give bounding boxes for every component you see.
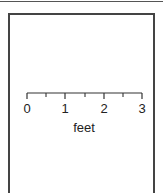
tick-label-1: 1 — [55, 102, 75, 115]
scale-bar — [0, 0, 163, 193]
tick-label-0: 0 — [17, 102, 37, 115]
tick-label-3: 3 — [132, 102, 152, 115]
tick-label-2: 2 — [94, 102, 114, 115]
unit-label: feet — [64, 121, 104, 135]
